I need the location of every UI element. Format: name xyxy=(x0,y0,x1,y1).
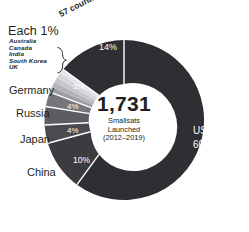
donut-center-label: 1,731 Smallsats Launched (2012–2019) xyxy=(86,92,162,143)
label-china: China xyxy=(27,166,56,178)
label-usa: USA xyxy=(193,125,214,136)
value-label-usa: 60% xyxy=(193,138,214,152)
label-japan: Japan xyxy=(20,133,50,145)
value-label-rest-countries: 14% xyxy=(99,42,117,52)
center-subtitle: Smallsats Launched (2012–2019) xyxy=(86,117,162,143)
donut-chart: 57 countries and Europe Each 1% Australi… xyxy=(0,0,249,232)
value-label-russia: 4% xyxy=(67,102,79,111)
value-label-germany: 3% xyxy=(73,82,84,91)
list-each-one-percent-countries: Australia Canada India South Korea UK xyxy=(9,38,47,71)
label-russia: Russia xyxy=(16,107,50,119)
label-each-one-percent-heading: Each 1% xyxy=(8,24,59,38)
center-total-value: 1,731 xyxy=(86,92,162,115)
value-label-china: 10% xyxy=(73,155,90,165)
list-item: UK xyxy=(9,64,47,71)
value-label-japan: 4% xyxy=(67,126,79,135)
label-germany: Germany xyxy=(9,84,54,96)
center-subtitle-line-3: (2012–2019) xyxy=(86,134,162,143)
label-usa-group: USA 60% xyxy=(193,124,214,152)
